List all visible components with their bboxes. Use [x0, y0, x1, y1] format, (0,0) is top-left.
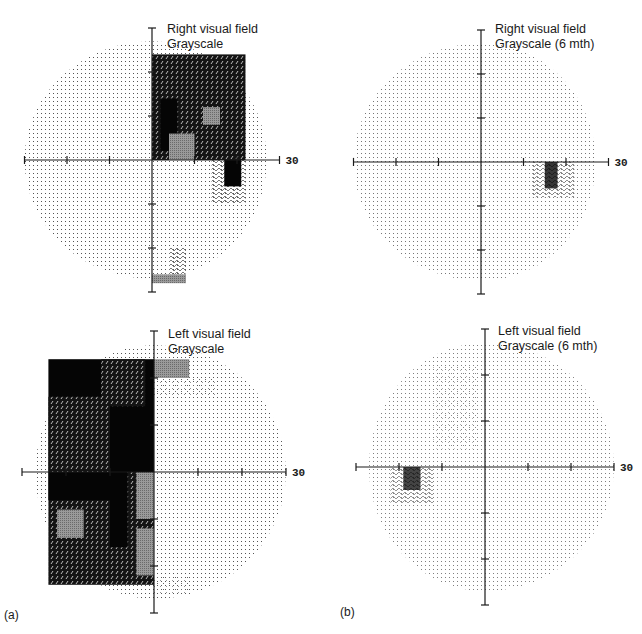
defect-region-moderate — [169, 134, 195, 160]
panel-subtitle: Grayscale — [167, 37, 223, 51]
x-tick-label: 30 — [620, 462, 633, 474]
x-tick-label: 30 — [615, 157, 628, 169]
defect-region-absolute — [48, 472, 110, 500]
panel-left-visual-field-6mth: 30Left visual fieldGrayscale (6 mth) — [356, 324, 633, 605]
panel-title: Right visual field — [495, 22, 586, 36]
panel-title: Right visual field — [167, 22, 258, 36]
defect-region-mild — [433, 366, 476, 449]
defect-region-absolute — [545, 162, 558, 188]
defect-region-absolute — [403, 467, 420, 490]
panel-title: Left visual field — [498, 324, 581, 338]
panel-letter-a: (a) — [4, 608, 19, 622]
x-tick-label: 30 — [292, 467, 305, 479]
panel-subtitle: Grayscale (6 mth) — [495, 37, 594, 51]
defect-region-mild — [154, 378, 216, 397]
panel-subtitle: Grayscale — [168, 342, 224, 356]
defect-region-moderate — [203, 107, 220, 125]
defect-region-moderate — [152, 274, 186, 283]
panel-title: Left visual field — [168, 327, 251, 341]
x-tick-label: 30 — [286, 155, 299, 167]
defect-region-absolute — [110, 472, 128, 547]
defect-region-mild — [154, 575, 189, 594]
panel-left-visual-field: 30Left visual fieldGrayscale — [22, 327, 305, 613]
defect-region-moderate — [154, 359, 189, 378]
defect-region-relative — [169, 248, 186, 274]
visual-field-figure: 30Right visual fieldGrayscale 30Right vi… — [0, 0, 642, 634]
defect-region-moderate — [136, 472, 154, 519]
defect-region-absolute — [224, 160, 241, 186]
defect-region-moderate — [136, 528, 154, 575]
panel-subtitle: Grayscale (6 mth) — [498, 339, 597, 353]
defect-region-dense — [101, 359, 145, 406]
defect-region-dense — [48, 397, 110, 472]
panel-right-visual-field: 30Right visual fieldGrayscale — [25, 22, 299, 292]
panel-right-visual-field-6mth: 30Right visual fieldGrayscale (6 mth) — [354, 22, 628, 294]
panel-letter-b: (b) — [340, 605, 355, 619]
defect-region-moderate — [57, 510, 83, 538]
